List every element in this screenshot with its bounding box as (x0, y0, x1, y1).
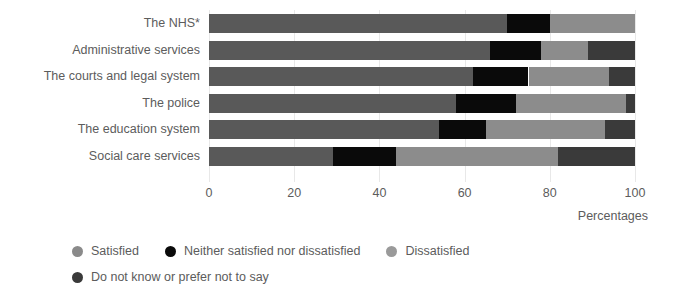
bar-segment (209, 14, 507, 33)
x-axis-ticks: 020406080100 (209, 186, 635, 204)
x-tick-label-40: 40 (372, 186, 386, 200)
x-tick-label-0: 0 (206, 186, 213, 200)
bar-segment (558, 147, 635, 166)
legend-row-1: SatisfiedNeither satisfied nor dissatisf… (72, 238, 672, 264)
bar-segment (456, 94, 516, 113)
bar-segment (209, 67, 473, 86)
y-axis-label-4: The education system (0, 122, 200, 136)
legend-item[interactable]: Dissatisfied (386, 244, 469, 258)
bar-segment (486, 120, 605, 139)
legend-item[interactable]: Satisfied (72, 244, 139, 258)
bar-row (209, 147, 635, 166)
bar-segment (529, 67, 610, 86)
y-axis-label-0: The NHS* (0, 16, 200, 30)
legend-item[interactable]: Do not know or prefer not to say (72, 270, 269, 284)
x-axis-title: Percentages (0, 209, 648, 223)
bar-segment (209, 94, 456, 113)
legend: SatisfiedNeither satisfied nor dissatisf… (72, 238, 672, 290)
bar-segment (209, 147, 333, 166)
bar-segment (490, 41, 541, 60)
bar-segment (588, 41, 635, 60)
legend-swatch-circle-icon (72, 246, 83, 257)
bar-segment (333, 147, 397, 166)
bar-segment (209, 41, 490, 60)
bar-segment (439, 120, 486, 139)
bar-series-container (209, 10, 635, 182)
legend-item[interactable]: Neither satisfied nor dissatisfied (165, 244, 360, 258)
x-tick-label-80: 80 (543, 186, 557, 200)
bar-segment (605, 120, 635, 139)
bar-segment (516, 94, 627, 113)
bar-segment (541, 41, 588, 60)
bar-row (209, 67, 635, 86)
bar-segment (550, 14, 635, 33)
bar-segment (507, 14, 550, 33)
bar-segment (209, 120, 439, 139)
legend-label: Dissatisfied (405, 244, 469, 258)
y-axis-label-3: The police (0, 96, 200, 110)
bar-segment (396, 147, 558, 166)
bar-segment (609, 67, 635, 86)
legend-label: Do not know or prefer not to say (91, 270, 269, 284)
bar-segment (626, 94, 635, 113)
y-axis-label-2: The courts and legal system (0, 69, 200, 83)
x-tick-label-60: 60 (458, 186, 472, 200)
stacked-bar-chart: The NHS* Administrative services The cou… (0, 0, 684, 302)
y-axis-label-5: Social care services (0, 149, 200, 163)
x-axis-line (209, 182, 635, 183)
bar-segment (473, 67, 528, 86)
x-tick-label-20: 20 (287, 186, 301, 200)
legend-swatch-circle-icon (165, 246, 176, 257)
bar-row (209, 120, 635, 139)
plot-area (209, 10, 635, 182)
legend-label: Neither satisfied nor dissatisfied (184, 244, 360, 258)
legend-label: Satisfied (91, 244, 139, 258)
bar-row (209, 14, 635, 33)
bar-row (209, 41, 635, 60)
y-axis-labels: The NHS* Administrative services The cou… (0, 10, 200, 182)
y-axis-label-1: Administrative services (0, 43, 200, 57)
x-tick-label-100: 100 (625, 186, 646, 200)
legend-swatch-circle-icon (386, 246, 397, 257)
legend-swatch-circle-icon (72, 272, 83, 283)
gridline-100 (635, 10, 636, 182)
bar-row (209, 94, 635, 113)
legend-row-2: Do not know or prefer not to say (72, 264, 672, 290)
